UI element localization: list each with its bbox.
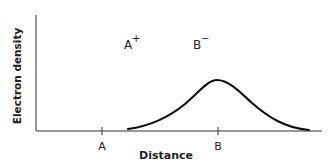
y-axis-label: Electron density — [11, 28, 23, 125]
x-axis-label: Distance — [139, 149, 193, 162]
ion-a-charge: + — [132, 33, 140, 44]
ion-b-label: B — [193, 38, 201, 52]
tick-label-b: B — [214, 140, 222, 153]
density-curve — [128, 80, 309, 130]
ion-b-charge: − — [201, 33, 209, 44]
electron-density-diagram: A B Distance Electron density A + B − — [0, 0, 330, 167]
tick-label-a: A — [98, 140, 106, 153]
